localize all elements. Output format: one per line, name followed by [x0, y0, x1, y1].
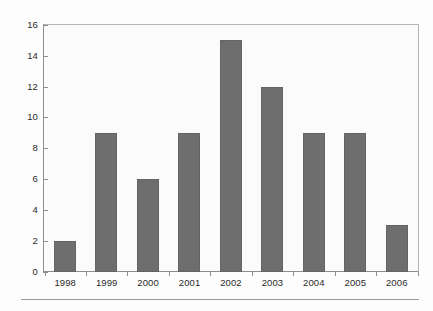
bar-2004[interactable]	[303, 133, 325, 272]
x-axis-tick-mark	[86, 272, 87, 276]
x-axis-tick-mark	[418, 272, 419, 276]
y-axis-tick-label: 16	[0, 20, 38, 30]
x-axis-tick-labels: 199819992000200120022003200420052006	[45, 277, 418, 291]
y-axis-tick-label: 8	[0, 143, 38, 153]
x-axis-tick-mark	[293, 272, 294, 276]
x-axis-tick-label-2003: 2003	[252, 277, 293, 289]
x-axis-tick-label-1999: 1999	[86, 277, 127, 289]
x-axis-tick-mark	[127, 272, 128, 276]
x-axis-tick-label-2000: 2000	[127, 277, 168, 289]
bar-slot	[86, 25, 127, 272]
bar-2002[interactable]	[220, 40, 242, 271]
x-axis-tick-mark	[376, 272, 377, 276]
bottom-separator-rule	[21, 299, 419, 300]
y-axis-tick-labels: 0246810121416	[0, 24, 38, 272]
bar-2005[interactable]	[344, 133, 366, 272]
bar-2003[interactable]	[261, 87, 283, 272]
x-axis-tick-mark	[169, 272, 170, 276]
x-axis-tick-mark	[252, 272, 253, 276]
bar-chart-figure: 0246810121416 19981999200020012002200320…	[0, 0, 433, 311]
bar-slot	[169, 25, 210, 272]
bar-slot	[210, 25, 251, 272]
y-axis-tick-label: 14	[0, 51, 38, 61]
bar-2001[interactable]	[178, 133, 200, 272]
x-axis-tick-label-2005: 2005	[335, 277, 376, 289]
x-axis-tick-label-2006: 2006	[376, 277, 417, 289]
bar-2006[interactable]	[386, 225, 408, 271]
x-axis-tick-label-2002: 2002	[210, 277, 251, 289]
x-axis-tick-mark	[210, 272, 211, 276]
bar-slot	[376, 25, 417, 272]
bar-slot	[293, 25, 334, 272]
bar-2000[interactable]	[137, 179, 159, 271]
bars-layer	[45, 25, 418, 272]
y-axis-tick-label: 6	[0, 174, 38, 184]
bar-1998[interactable]	[54, 241, 76, 272]
y-axis-tick-label: 10	[0, 112, 38, 122]
x-axis-tick-label-2001: 2001	[169, 277, 210, 289]
x-axis-tick-label-1998: 1998	[45, 277, 86, 289]
x-axis-tick-mark	[335, 272, 336, 276]
x-axis-tick-label-2004: 2004	[293, 277, 334, 289]
bar-1999[interactable]	[95, 133, 117, 272]
y-axis-tick-label: 0	[0, 267, 38, 277]
bar-slot	[335, 25, 376, 272]
y-axis-tick-label: 2	[0, 236, 38, 246]
bar-slot	[45, 25, 86, 272]
y-axis-tick-label: 4	[0, 205, 38, 215]
bar-slot	[127, 25, 168, 272]
x-axis-tick-mark	[45, 272, 46, 276]
y-axis-tick-label: 12	[0, 82, 38, 92]
bar-slot	[252, 25, 293, 272]
